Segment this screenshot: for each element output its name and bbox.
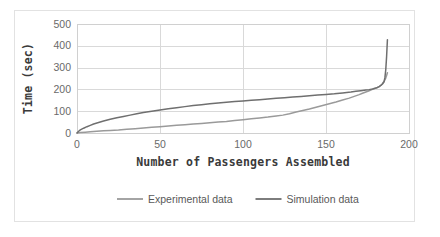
y-tick-label: 500: [53, 18, 71, 30]
series-line-1: [77, 73, 387, 133]
y-tick-label: 400: [53, 39, 71, 51]
legend-label: Simulation data: [287, 193, 360, 205]
series-lines: [77, 40, 387, 133]
x-tick-label: 0: [74, 138, 80, 150]
series-line-2: [77, 40, 387, 133]
x-tick-label: 150: [317, 138, 335, 150]
y-tick-label: 0: [65, 127, 71, 139]
x-tick-label: 50: [154, 138, 166, 150]
y-tick-label: 300: [53, 61, 71, 73]
y-axis-tick-labels: 0100200300400500: [53, 18, 71, 139]
x-tick-label: 100: [234, 138, 252, 150]
y-tick-label: 200: [53, 83, 71, 95]
y-tick-label: 100: [53, 105, 71, 117]
chart-legend: Experimental dataSimulation data: [117, 193, 359, 205]
line-chart: 0100200300400500 050100150200 Number of …: [0, 0, 440, 237]
gridlines: [77, 24, 410, 134]
x-axis-title: Number of Passengers Assembled: [136, 155, 350, 169]
chart-container: 0100200300400500 050100150200 Number of …: [0, 0, 440, 237]
x-axis-tick-labels: 050100150200: [74, 138, 418, 150]
y-axis-title: Time (sec): [21, 43, 35, 114]
x-tick-label: 200: [400, 138, 418, 150]
legend-label: Experimental data: [148, 193, 233, 205]
